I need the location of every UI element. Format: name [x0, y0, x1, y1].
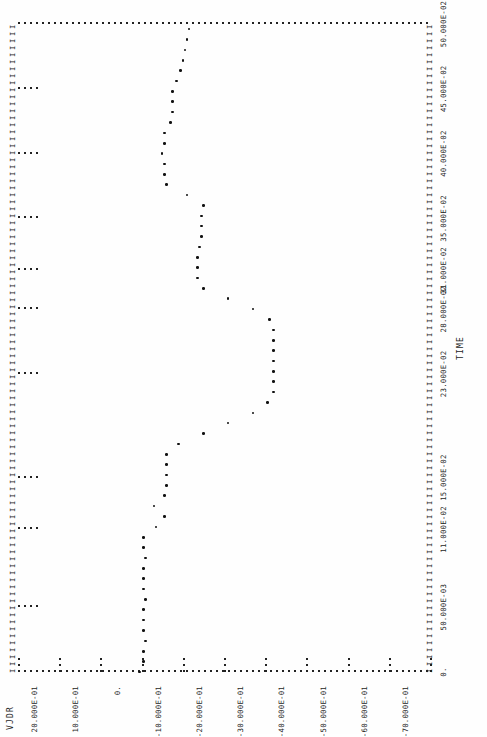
data-point — [227, 297, 230, 300]
data-point — [188, 28, 191, 31]
top-border-glyph: I — [10, 186, 17, 190]
y-major-tick-2 — [100, 658, 102, 672]
data-point — [163, 494, 166, 497]
top-border-glyph: I — [10, 242, 17, 246]
x-axis-tick-label: 45.000E-02 — [440, 66, 448, 113]
top-border-glyph: I — [10, 634, 17, 638]
x-major-tick-8 — [18, 152, 40, 154]
bottom-border-glyph: I — [427, 543, 434, 547]
top-border-glyph: I — [10, 508, 17, 512]
bottom-border-glyph: I — [427, 102, 434, 106]
top-border-glyph: I — [10, 207, 17, 211]
y-major-tick-8 — [348, 658, 350, 672]
bottom-border-glyph: I — [427, 116, 434, 120]
y-axis-tick-label: 0. — [114, 686, 122, 695]
y-axis-tick-label: 20.000E-01 — [31, 686, 39, 733]
top-border-glyph: I — [10, 88, 17, 92]
y-axis-tick-label: -30.000E-01 — [237, 686, 245, 737]
x-axis-title: TIME — [456, 336, 465, 360]
bottom-border-glyph: I — [427, 67, 434, 71]
bottom-border-glyph: I — [427, 291, 434, 295]
top-border-glyph: I — [10, 431, 17, 435]
top-border-glyph: I — [10, 529, 17, 533]
bottom-border-glyph: I — [427, 529, 434, 533]
bottom-border-glyph: I — [427, 270, 434, 274]
bottom-border-glyph: I — [427, 494, 434, 498]
y-axis-tick-label: -20.000E-01 — [196, 686, 204, 737]
bottom-border-glyph: I — [427, 305, 434, 309]
data-point — [202, 204, 205, 207]
top-border-glyph: I — [10, 102, 17, 106]
bottom-border-glyph: I — [427, 249, 434, 253]
bottom-border-glyph: I — [427, 333, 434, 337]
top-border-glyph: I — [10, 123, 17, 127]
data-point — [165, 183, 168, 186]
top-border-glyph: I — [10, 46, 17, 50]
top-border-glyph: I — [10, 130, 17, 134]
top-border-glyph: I — [10, 417, 17, 421]
top-border-glyph: I — [10, 249, 17, 253]
data-point — [182, 59, 185, 62]
data-point — [161, 152, 164, 155]
data-point — [272, 329, 275, 332]
bottom-border-glyph: I — [427, 452, 434, 456]
data-point — [175, 80, 178, 83]
top-border-glyph: I — [10, 81, 17, 85]
bottom-border-glyph: I — [427, 25, 434, 29]
bottom-border-glyph: I — [427, 564, 434, 568]
data-point — [153, 505, 156, 508]
top-border-glyph: I — [10, 256, 17, 260]
top-border-glyph: I — [10, 522, 17, 526]
data-point — [171, 90, 174, 93]
data-point — [163, 163, 166, 166]
data-point — [144, 598, 147, 601]
data-point — [196, 256, 199, 259]
bottom-border-glyph: I — [427, 347, 434, 351]
data-point — [272, 349, 275, 352]
data-point — [171, 111, 174, 114]
bottom-border-glyph: I — [427, 368, 434, 372]
data-point — [144, 640, 147, 643]
data-point — [142, 546, 145, 549]
bottom-border-glyph: I — [427, 179, 434, 183]
bottom-border-glyph: I — [427, 354, 434, 358]
bottom-border-glyph: I — [427, 487, 434, 491]
top-border-glyph: I — [10, 445, 17, 449]
bottom-border-glyph: I — [427, 606, 434, 610]
top-border-glyph: I — [10, 361, 17, 365]
x-major-tick-10 — [18, 22, 40, 24]
top-border-glyph: I — [10, 389, 17, 393]
bottom-border-glyph: I — [427, 585, 434, 589]
top-border-glyph: I — [10, 473, 17, 477]
x-axis-tick-label: 50.000E-03 — [440, 584, 448, 631]
top-border-glyph: I — [10, 284, 17, 288]
top-border-glyph: I — [10, 158, 17, 162]
y-major-tick-9 — [389, 658, 391, 672]
bottom-border-glyph: I — [427, 242, 434, 246]
bottom-border-glyph: I — [427, 438, 434, 442]
bottom-border-glyph: I — [427, 536, 434, 540]
top-border-glyph: I — [10, 396, 17, 400]
top-border-glyph: I — [10, 67, 17, 71]
top-border-glyph: I — [10, 214, 17, 218]
data-point — [142, 629, 145, 632]
bottom-border-glyph: I — [427, 473, 434, 477]
y-major-tick-7 — [306, 658, 308, 672]
x-axis-tick-label: 23.000E-02 — [440, 351, 448, 398]
bottom-border-glyph: I — [427, 123, 434, 127]
y-major-tick-10 — [430, 658, 432, 672]
bottom-border-glyph: I — [427, 459, 434, 463]
x-major-tick-1 — [18, 605, 40, 607]
y-axis-title: VJDR — [6, 706, 15, 730]
top-border-glyph: I — [10, 557, 17, 561]
data-point — [142, 619, 145, 622]
bottom-border-glyph: I — [427, 361, 434, 365]
x-axis-tick-label: 35.000E-02 — [440, 195, 448, 242]
data-point — [138, 671, 141, 674]
top-border-glyph: I — [10, 165, 17, 169]
bottom-border-glyph: I — [427, 319, 434, 323]
top-border-glyph: I — [10, 60, 17, 64]
data-point — [202, 432, 205, 435]
bottom-border-glyph: I — [427, 130, 434, 134]
